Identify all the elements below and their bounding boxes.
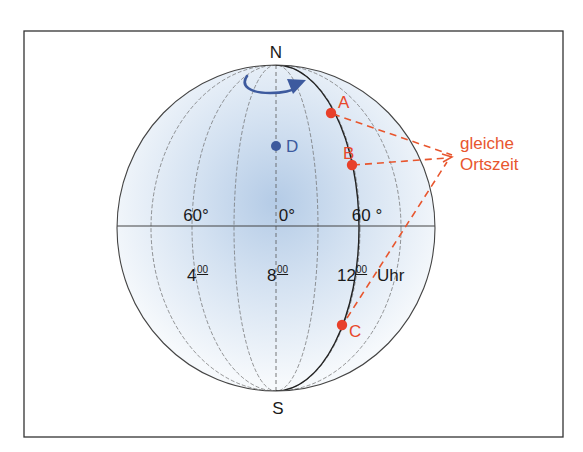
svg-text:8: 8 xyxy=(267,266,276,285)
svg-text:00: 00 xyxy=(356,264,368,275)
svg-text:Uhr: Uhr xyxy=(377,266,405,285)
point-d-label: D xyxy=(286,137,298,156)
svg-text:00: 00 xyxy=(197,264,209,275)
longitude-label-60-east: 60 ° xyxy=(352,206,382,225)
point-d-marker xyxy=(271,141,281,151)
annotation-line-2: Ortszeit xyxy=(460,155,519,174)
annotation-line-1: gleiche xyxy=(460,134,514,153)
svg-text:00: 00 xyxy=(277,264,289,275)
north-pole-label: N xyxy=(270,43,282,62)
south-pole-label: S xyxy=(272,399,283,418)
longitude-label-60-west: 60° xyxy=(183,206,209,225)
point-c-marker xyxy=(337,320,347,330)
svg-text:12: 12 xyxy=(337,266,356,285)
point-a-marker xyxy=(326,108,336,118)
point-b-label: B xyxy=(343,144,354,163)
point-c-label: C xyxy=(349,322,361,341)
earth-rotation-diagram: A B C D N S 60° 0° 60 ° 4 00 8 00 12 00 … xyxy=(0,0,583,452)
svg-text:4: 4 xyxy=(187,266,196,285)
point-a-label: A xyxy=(338,93,350,112)
longitude-label-0: 0° xyxy=(279,206,295,225)
